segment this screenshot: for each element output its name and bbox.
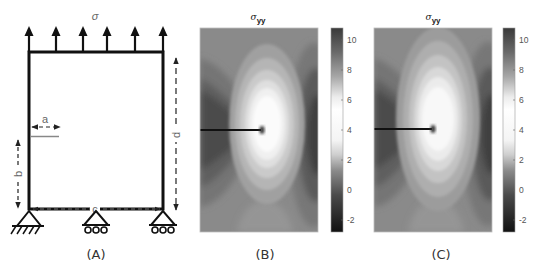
colorbar-tick-label: 4 — [347, 125, 352, 135]
load-label: σ — [92, 10, 99, 22]
contour-band — [253, 96, 281, 152]
colorbar-tick-label: 2 — [519, 155, 524, 165]
colorbar-tick-label: 0 — [347, 185, 352, 195]
plot-title-c: σyy — [425, 12, 441, 25]
plot-title-b: σyy — [250, 12, 266, 25]
plate-outline — [29, 52, 163, 209]
colorbar-tick-label: 6 — [519, 95, 524, 105]
panel-c: σyy 1086420-2 (C) — [374, 12, 529, 262]
colorbar-tick-label: -2 — [347, 215, 355, 225]
dimension-a-label: a — [42, 113, 49, 125]
support-roller-right — [149, 211, 177, 233]
dimension-d-label: d — [170, 132, 182, 138]
colorbar-tick-label: 8 — [519, 65, 524, 75]
dimension-b-label: b — [12, 171, 24, 177]
support-pinned — [11, 211, 44, 234]
load-arrows — [25, 26, 168, 52]
contour-band — [422, 87, 454, 151]
caption-b: (B) — [255, 247, 274, 262]
colorbar-tick-label: 10 — [519, 35, 529, 45]
load-arrow-head — [131, 26, 140, 36]
caption-a: (A) — [86, 247, 105, 262]
figure: σ a b c d — [0, 0, 538, 273]
panel-a: σ a b c d — [11, 10, 182, 262]
load-arrow-head — [79, 26, 88, 36]
crack-tip — [431, 125, 436, 133]
colorbar-tick-label: 4 — [519, 125, 524, 135]
colorbar-tick-label: 10 — [347, 35, 357, 45]
dimension-d: d — [170, 58, 182, 210]
crack-tip — [260, 126, 265, 134]
contour-field-c — [374, 27, 514, 232]
colorbar-tick-label: 0 — [519, 185, 524, 195]
colorbar-c: 1086420-2 — [503, 28, 529, 232]
load-arrow-head — [103, 26, 112, 36]
load-arrow-head — [25, 26, 34, 36]
colorbar-tick-label: -2 — [519, 215, 527, 225]
contour-field-b — [200, 28, 340, 232]
colorbar-tick-label: 8 — [347, 65, 352, 75]
panel-b: σyy 1086420-2 (B) — [200, 12, 357, 262]
dimension-b: b — [12, 140, 24, 208]
load-arrow-head — [52, 26, 61, 36]
caption-c: (C) — [431, 247, 450, 262]
dimension-a: a — [32, 113, 60, 127]
load-arrow-head — [159, 26, 168, 36]
colorbar-tick-label: 6 — [347, 95, 352, 105]
colorbar-tick-label: 2 — [347, 155, 352, 165]
colorbar-b: 1086420-2 — [331, 28, 357, 232]
